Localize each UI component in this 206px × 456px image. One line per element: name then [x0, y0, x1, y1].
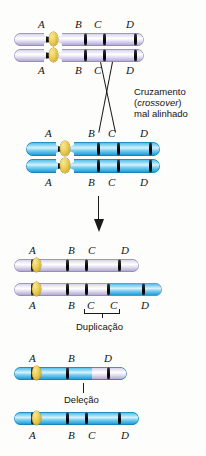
label-purple-top-D: D	[126, 19, 134, 30]
label-purple-bottom-B: B	[75, 65, 82, 76]
centromere-blue-lower	[60, 158, 70, 173]
deletion-leader-line	[83, 383, 84, 393]
label-blue-bottom-D: D	[140, 177, 148, 188]
label-blue-bottom-C: C	[108, 177, 115, 188]
centromere-dup-lower	[32, 282, 41, 296]
crossover-term: crossover	[137, 97, 178, 108]
arrow-head	[94, 219, 104, 232]
label-del-upper-A: A	[29, 353, 36, 364]
label-del-upper-B: B	[68, 353, 75, 364]
label-dup-upper-C: C	[88, 245, 95, 256]
label-dup-upper-D: D	[121, 245, 129, 256]
label-dup-lower-C1: C	[87, 300, 94, 311]
label-dup-lower-C2: C	[110, 300, 117, 311]
paren-close: )	[178, 97, 181, 108]
centromere-purple-upper	[49, 32, 58, 46]
crossover-note-line2: (crossover)	[134, 97, 182, 109]
label-blue-top-A: A	[45, 128, 52, 139]
figure-canvas: A B C D A B C	[0, 0, 206, 456]
crossover-note-line3: mal alinhado	[134, 108, 188, 120]
label-del-lower-C: C	[88, 430, 95, 441]
label-del-lower-A: A	[29, 430, 36, 441]
label-dup-upper-A: A	[29, 245, 36, 256]
label-dup-lower-B: B	[68, 300, 75, 311]
label-del-lower-D: D	[121, 430, 129, 441]
chromosome-deletion	[14, 367, 127, 380]
chromatid-blue-upper	[26, 142, 160, 156]
label-purple-top-A: A	[38, 19, 45, 30]
chromatid-blue-lower	[26, 159, 160, 173]
label-blue-top-D: D	[140, 128, 148, 139]
centromere-purple-lower	[49, 48, 58, 62]
label-purple-bottom-A: A	[38, 65, 45, 76]
label-dup-upper-B: B	[68, 245, 75, 256]
duplication-caption: Duplicação	[76, 321, 123, 333]
centromere-normal-blue	[32, 411, 41, 425]
centromere-blue-upper	[60, 141, 70, 156]
label-del-upper-D: D	[104, 353, 112, 364]
label-blue-top-C: C	[108, 128, 115, 139]
centromere-deletion	[32, 366, 41, 380]
label-blue-bottom-A: A	[45, 177, 52, 188]
centromere-dup-upper	[32, 258, 41, 272]
label-purple-bottom-D: D	[126, 65, 134, 76]
deletion-caption: Deleção	[64, 394, 99, 406]
label-blue-top-B: B	[88, 128, 95, 139]
label-purple-top-B: B	[75, 19, 82, 30]
label-blue-bottom-B: B	[88, 177, 95, 188]
crossover-note-line1: Cruzamento	[134, 86, 186, 98]
crossover-line-left	[100, 62, 116, 133]
label-dup-lower-A: A	[29, 300, 36, 311]
label-purple-top-C: C	[94, 19, 101, 30]
chromatid-purple-lower	[14, 49, 144, 62]
chromatid-purple-upper	[14, 33, 144, 46]
label-del-lower-B: B	[68, 430, 75, 441]
label-dup-lower-D: D	[141, 300, 149, 311]
